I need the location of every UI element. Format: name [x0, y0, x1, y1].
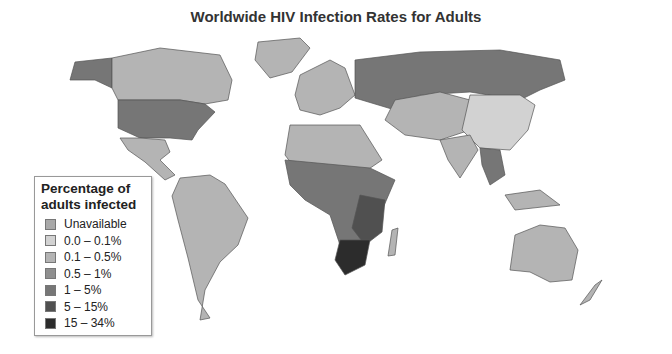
swatch-icon	[45, 219, 56, 230]
swatch-icon	[45, 318, 56, 329]
legend-item: 0.5 – 1%	[41, 266, 145, 283]
swatch-icon	[45, 301, 56, 312]
swatch-icon	[45, 252, 56, 263]
legend-item: 0.1 – 0.5%	[41, 249, 145, 266]
region-usa	[118, 100, 215, 140]
swatch-icon	[45, 285, 56, 296]
legend-item: 0.0 – 0.1%	[41, 233, 145, 250]
legend-title-line1: Percentage of	[41, 181, 145, 197]
map-legend: Percentage of adults infected Unavailabl…	[34, 176, 152, 336]
region-madagascar	[388, 228, 398, 256]
region-new-zealand	[580, 280, 602, 305]
region-central-asia	[385, 92, 470, 140]
legend-item: 15 – 34%	[41, 315, 145, 332]
swatch-icon	[45, 268, 56, 279]
region-se-asia	[480, 148, 505, 185]
region-mexico	[120, 138, 175, 180]
region-southern-africa	[335, 240, 370, 275]
region-india	[440, 135, 478, 178]
region-europe	[295, 60, 355, 115]
legend-item: 5 – 15%	[41, 299, 145, 316]
region-south-america	[172, 175, 248, 320]
legend-item: Unavailable	[41, 216, 145, 233]
region-alaska	[70, 58, 112, 88]
region-canada	[112, 48, 232, 104]
region-indonesia	[505, 190, 560, 210]
region-australia	[510, 225, 578, 282]
legend-title-line2: adults infected	[41, 197, 145, 213]
legend-item: 1 – 5%	[41, 282, 145, 299]
swatch-icon	[45, 235, 56, 246]
region-greenland	[255, 38, 310, 78]
